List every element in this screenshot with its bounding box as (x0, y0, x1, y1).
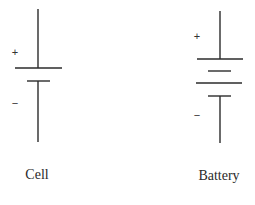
cell-label: Cell (25, 167, 48, 183)
battery-label: Battery (198, 168, 239, 184)
cell-minus-sign: − (12, 98, 18, 109)
battery-minus-sign: − (194, 110, 200, 121)
cell-symbol (15, 9, 62, 142)
cell-plus-sign: + (12, 47, 18, 58)
battery-plus-sign: + (194, 31, 200, 42)
battery-symbol (196, 11, 243, 143)
